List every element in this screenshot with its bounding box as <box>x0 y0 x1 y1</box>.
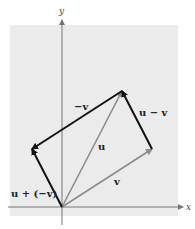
label-u-minus-v: u − v <box>139 107 169 118</box>
label-neg-v: −v <box>74 101 89 112</box>
y-axis-label: y <box>58 6 65 16</box>
label-u: u <box>98 141 105 152</box>
x-axis-label: x <box>186 202 191 212</box>
label-u-plus-neg-v: u + (−v) <box>11 188 57 199</box>
label-v: v <box>113 176 121 187</box>
vector-diagram: x y −v u − v u v u + (−v) <box>0 0 195 229</box>
